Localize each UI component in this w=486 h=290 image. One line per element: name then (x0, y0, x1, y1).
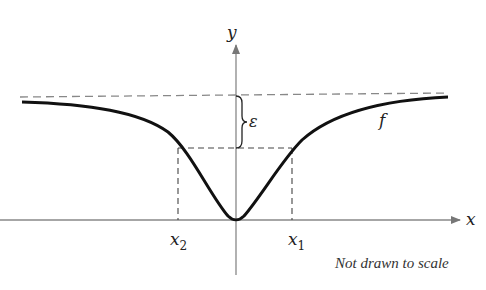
x-axis-label: x (466, 209, 476, 229)
asymptote-dashed-line (20, 93, 448, 97)
scale-note: Not drawn to scale (334, 255, 449, 271)
epsilon-brace (236, 96, 247, 148)
limit-diagram: y x ε f x2 x1 Not drawn to scale (0, 0, 486, 290)
y-axis-label: y (226, 22, 237, 42)
x2-label: x2 (170, 229, 187, 253)
x1-label: x1 (288, 229, 305, 253)
epsilon-label: ε (249, 112, 258, 131)
function-label: f (377, 110, 388, 130)
